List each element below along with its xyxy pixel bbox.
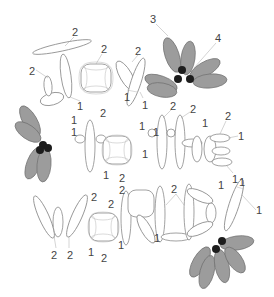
letter-w: [30, 193, 91, 240]
letter-o-1: [79, 62, 113, 94]
segment-label-l-top: 1: [218, 180, 224, 191]
segment-label-t2-side: 1: [139, 121, 145, 132]
segment-label-e-right: 1: [238, 131, 244, 142]
segment-label-d-top: 2: [171, 184, 177, 195]
segment-label-y-top: 2: [135, 46, 141, 57]
letter-o-2: [102, 135, 132, 165]
segment-label-excl-top: 1: [239, 177, 245, 188]
segment-label-o2-bot-1: 1: [103, 170, 109, 181]
segment-label-o1-bot-2: 2: [100, 108, 106, 119]
segment-label-w-bot-1: 2: [51, 250, 57, 261]
segment-label-o1-bot-1: 1: [77, 101, 83, 112]
segment-label-excl-right: 1: [256, 205, 262, 216]
segment-label-t2-top: 2: [170, 101, 176, 112]
segment-label-o2-side: 1: [153, 127, 159, 138]
segment-label-t1-a: 1: [71, 115, 77, 126]
segment-label-w-o-left: 2: [108, 199, 114, 210]
balloon-diagram: 222211341211221121121112222111221211: [0, 0, 274, 297]
segment-label-y-bot: 1: [142, 100, 148, 111]
segment-label-w-bot-2: 2: [67, 250, 73, 261]
segment-label-t1-b: 1: [71, 127, 77, 138]
segment-label-r-bot: 1: [118, 240, 124, 251]
letter-t-2: [148, 115, 175, 169]
balloon-flower-left: [12, 103, 53, 183]
letter-d: [184, 184, 216, 240]
segment-label-e-top: 2: [225, 111, 231, 122]
segment-label-flower-4: 4: [215, 33, 221, 44]
balloon-flower-top-right: [143, 36, 228, 100]
segment-label-j-left: 2: [29, 66, 35, 77]
letter-e: [204, 134, 232, 166]
letter-t-1: [75, 120, 106, 172]
segment-label-y-mid: 1: [124, 92, 130, 103]
segment-label-w-o-top: 2: [91, 192, 97, 203]
segment-label-l-bot: 1: [154, 233, 160, 244]
segment-label-t2-cross: 2: [190, 104, 196, 115]
segment-label-j-top: 2: [72, 27, 78, 38]
segment-label-o3-bot-2: 2: [101, 253, 107, 264]
segment-label-flower-3: 3: [150, 14, 156, 25]
segment-label-t2-lower: 1: [142, 149, 148, 160]
segment-label-r-top: 2: [119, 185, 125, 196]
balloon-flower-bottom-right: [185, 234, 254, 291]
segment-label-o1-top: 2: [101, 44, 107, 55]
segment-label-e-bot: 1: [232, 174, 238, 185]
segment-label-h-top: 1: [202, 118, 208, 129]
segment-label-o2-bot-2: 2: [119, 173, 125, 184]
letter-r: [121, 190, 158, 245]
segment-label-o3-bot-1: 1: [88, 247, 94, 258]
letter-h: [175, 115, 202, 169]
letter-o-3: [88, 212, 119, 242]
